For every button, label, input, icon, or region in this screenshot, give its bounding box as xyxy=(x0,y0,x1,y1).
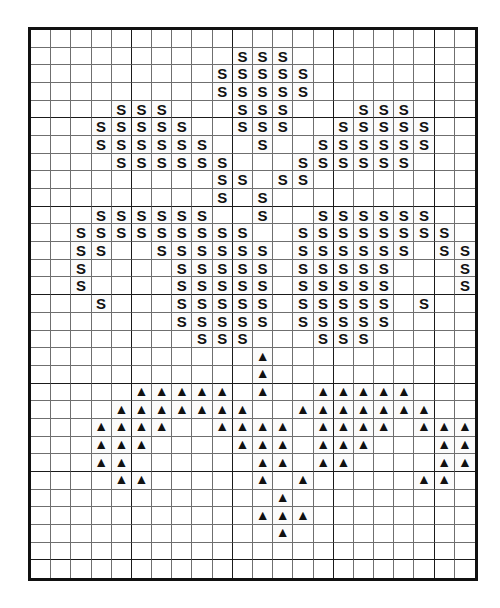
grid-cell-s: S xyxy=(233,224,253,242)
grid-cell-s: S xyxy=(233,313,253,331)
letter-s-stitch-symbol: S xyxy=(237,331,247,346)
grid-cell-s: S xyxy=(152,207,172,225)
grid-cell-empty xyxy=(394,454,414,472)
grid-cell-empty xyxy=(51,384,71,402)
grid-cell-empty xyxy=(71,118,91,136)
grid-cell-empty xyxy=(233,454,253,472)
grid-cell-s: S xyxy=(92,136,112,154)
grid-cell-empty xyxy=(455,189,475,207)
filled-triangle-stitch-symbol: ▲ xyxy=(155,419,169,433)
grid-cell-empty xyxy=(455,543,475,561)
grid-cell-empty xyxy=(414,101,434,119)
filled-triangle-stitch-symbol: ▲ xyxy=(94,437,108,451)
letter-s-stitch-symbol: S xyxy=(217,225,227,240)
grid-cell-empty xyxy=(31,331,51,349)
grid-cell-empty xyxy=(192,30,212,48)
grid-cell-empty xyxy=(354,454,374,472)
filled-triangle-stitch-symbol: ▲ xyxy=(437,455,451,469)
grid-cell-s: S xyxy=(414,207,434,225)
filled-triangle-stitch-symbol: ▲ xyxy=(256,419,270,433)
grid-cell-empty xyxy=(132,348,152,366)
grid-cell-empty xyxy=(455,30,475,48)
letter-s-stitch-symbol: S xyxy=(379,207,389,222)
grid-cell-empty xyxy=(31,454,51,472)
grid-cell-empty xyxy=(112,260,132,278)
grid-cell-empty xyxy=(334,189,354,207)
letter-s-stitch-symbol: S xyxy=(460,278,470,293)
grid-cell-empty xyxy=(152,313,172,331)
grid-cell-empty xyxy=(233,366,253,384)
grid-cell-empty xyxy=(71,154,91,172)
grid-cell-s: S xyxy=(394,101,414,119)
grid-cell-empty xyxy=(435,295,455,313)
grid-cell-empty xyxy=(152,454,172,472)
letter-s-stitch-symbol: S xyxy=(278,119,288,134)
grid-cell-s: S xyxy=(334,118,354,136)
grid-cell-empty xyxy=(152,366,172,384)
grid-cell-s: S xyxy=(192,207,212,225)
letter-s-stitch-symbol: S xyxy=(278,66,288,81)
grid-cell-empty xyxy=(213,437,233,455)
grid-cell-empty xyxy=(112,189,132,207)
filled-triangle-stitch-symbol: ▲ xyxy=(256,384,270,398)
grid-cell-empty xyxy=(71,507,91,525)
grid-cell-empty xyxy=(354,48,374,66)
letter-s-stitch-symbol: S xyxy=(217,313,227,328)
grid-cell-empty xyxy=(31,171,51,189)
letter-s-stitch-symbol: S xyxy=(258,136,268,151)
grid-cell-empty xyxy=(112,171,132,189)
grid-cell-triangle: ▲ xyxy=(172,401,192,419)
letter-s-stitch-symbol: S xyxy=(76,278,86,293)
grid-cell-s: S xyxy=(233,171,253,189)
filled-triangle-stitch-symbol: ▲ xyxy=(256,366,270,380)
grid-cell-triangle: ▲ xyxy=(132,401,152,419)
grid-cell-s: S xyxy=(455,242,475,260)
grid-cell-s: S xyxy=(71,242,91,260)
grid-cell-s: S xyxy=(354,136,374,154)
grid-cell-empty xyxy=(31,295,51,313)
grid-cell-empty xyxy=(51,101,71,119)
grid-cell-empty xyxy=(455,295,475,313)
grid-cell-triangle: ▲ xyxy=(92,419,112,437)
grid-cell-empty xyxy=(213,560,233,578)
filled-triangle-stitch-symbol: ▲ xyxy=(296,402,310,416)
grid-cell-empty xyxy=(112,525,132,543)
grid-cell-empty xyxy=(192,490,212,508)
grid-cell-empty xyxy=(172,348,192,366)
letter-s-stitch-symbol: S xyxy=(76,260,86,275)
letter-s-stitch-symbol: S xyxy=(237,101,247,116)
grid-cell-empty xyxy=(213,136,233,154)
grid-cell-empty xyxy=(233,154,253,172)
grid-cell-empty xyxy=(132,331,152,349)
letter-s-stitch-symbol: S xyxy=(399,242,409,257)
grid-cell-empty xyxy=(374,331,394,349)
grid-cell-triangle: ▲ xyxy=(132,384,152,402)
filled-triangle-stitch-symbol: ▲ xyxy=(114,402,128,416)
grid-cell-triangle: ▲ xyxy=(354,419,374,437)
grid-cell-empty xyxy=(51,30,71,48)
grid-cell-s: S xyxy=(213,295,233,313)
grid-cell-empty xyxy=(112,48,132,66)
grid-cell-s: S xyxy=(213,331,233,349)
grid-cell-empty xyxy=(71,419,91,437)
grid-cell-s: S xyxy=(152,242,172,260)
grid-cell-empty xyxy=(435,207,455,225)
grid-cell-empty xyxy=(31,242,51,260)
grid-cell-empty xyxy=(71,560,91,578)
letter-s-stitch-symbol: S xyxy=(258,189,268,204)
grid-cell-triangle: ▲ xyxy=(112,401,132,419)
grid-cell-empty xyxy=(92,490,112,508)
grid-cell-empty xyxy=(354,65,374,83)
grid-cell-empty xyxy=(132,65,152,83)
grid-cell-empty xyxy=(293,384,313,402)
grid-cell-empty xyxy=(71,437,91,455)
letter-s-stitch-symbol: S xyxy=(136,101,146,116)
letter-s-stitch-symbol: S xyxy=(278,48,288,63)
grid-cell-empty xyxy=(354,171,374,189)
grid-cell-empty xyxy=(132,48,152,66)
filled-triangle-stitch-symbol: ▲ xyxy=(175,402,189,416)
letter-s-stitch-symbol: S xyxy=(197,295,207,310)
filled-triangle-stitch-symbol: ▲ xyxy=(135,384,149,398)
grid-cell-empty xyxy=(213,118,233,136)
grid-cell-empty xyxy=(71,136,91,154)
